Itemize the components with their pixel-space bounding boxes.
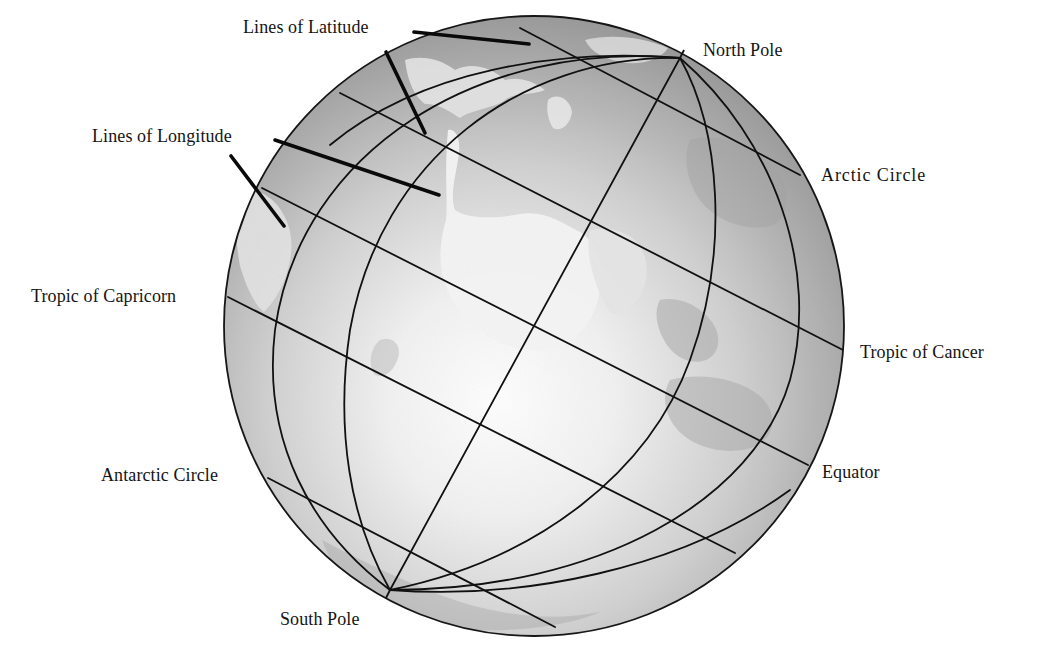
label-lines-of-longitude: Lines of Longitude	[92, 126, 232, 146]
label-tropic-of-capricorn: Tropic of Capricorn	[31, 286, 176, 306]
label-arctic-circle: Arctic Circle	[821, 165, 926, 185]
label-lines-of-latitude: Lines of Latitude	[243, 17, 369, 37]
globe-diagram	[0, 0, 1038, 648]
label-north-pole: North Pole	[703, 40, 783, 60]
label-equator: Equator	[822, 462, 880, 482]
label-south-pole: South Pole	[280, 609, 360, 629]
label-antarctic-circle: Antarctic Circle	[101, 465, 218, 485]
label-tropic-of-cancer: Tropic of Cancer	[860, 342, 984, 362]
